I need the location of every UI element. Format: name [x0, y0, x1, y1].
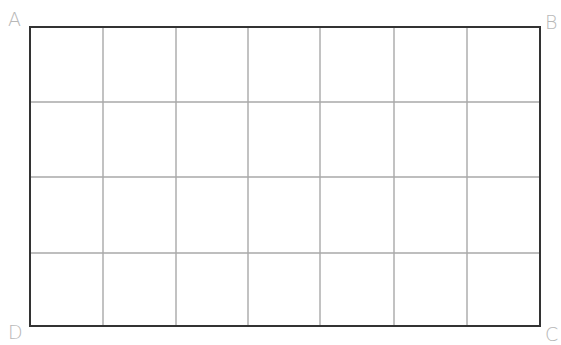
vertex-label-b: B: [545, 13, 557, 32]
grid-lines: [30, 27, 540, 326]
vertex-label-d: D: [8, 323, 23, 342]
vertex-label-c: C: [545, 325, 558, 344]
vertex-label-a: A: [8, 10, 21, 29]
